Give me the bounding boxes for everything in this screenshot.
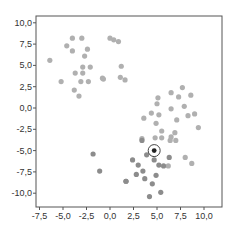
data-point [156,162,161,167]
x-tick-label: -5,0 [55,211,71,221]
data-point [88,65,93,70]
data-point [116,39,121,44]
data-point [188,93,193,98]
data-point [183,155,188,160]
y-tick-label: 7,5 [19,39,32,49]
data-point [79,36,84,41]
highlighted-point[interactable] [148,145,160,157]
x-tick-label: -2,5 [79,211,95,221]
data-point [142,176,147,181]
x-tick-label: 2,5 [127,211,140,221]
x-tick-label: 5,0 [151,211,164,221]
data-point [85,47,90,52]
data-point [196,125,201,130]
data-point [159,128,164,133]
data-point [150,181,155,186]
data-point [76,93,81,98]
x-tick-label: 0,0 [104,211,117,221]
data-point [136,162,141,167]
data-point [78,79,83,84]
data-point [72,88,77,93]
data-point [182,104,187,109]
data-point [152,157,157,162]
data-point [82,53,87,58]
data-point [149,111,154,116]
data-point [172,130,177,135]
x-tick-label: -7,5 [32,211,48,221]
data-point [140,168,145,173]
data-point [176,94,181,99]
data-point [70,48,75,53]
data-point [134,172,139,177]
data-point [180,85,185,90]
y-tick-label: 5,0 [19,60,32,70]
data-point [166,163,171,168]
y-tick-label: -10,0 [11,188,32,198]
x-tick-label: 10,0 [195,211,213,221]
y-tick-label: -5,0 [16,146,32,156]
data-point [189,161,194,166]
data-point [153,135,158,140]
scatter-chart: 10,07,55,02,50,0-2,5-5,0-7,5-10,0 -7,5-5… [0,0,235,232]
y-axis: 10,07,55,02,50,0-2,5-5,0-7,5-10,0 [11,18,36,198]
data-point [139,138,144,143]
data-point [141,116,146,121]
data-point [192,111,197,116]
data-point [173,138,178,143]
data-point [107,36,112,41]
y-tick-label: -2,5 [16,124,32,134]
data-point [97,168,102,173]
y-tick-label: -7,5 [16,167,32,177]
data-point [80,70,85,75]
data-point [86,79,91,84]
data-point [167,155,172,160]
data-point [154,101,159,106]
data-point [158,190,163,195]
data-point [73,70,78,75]
data-point [64,43,69,48]
x-axis: -7,5-5,0-2,50,02,55,07,510,0 [32,207,213,221]
data-point [119,64,124,69]
data-point [161,163,166,168]
data-point [59,79,64,84]
data-point [174,117,179,122]
x-tick-label: 7,5 [174,211,187,221]
data-point [155,95,160,100]
y-tick-label: 10,0 [14,18,32,28]
data-point [123,179,128,184]
data-point [130,157,135,162]
data-point [156,112,161,117]
data-point [100,76,105,81]
data-point [147,194,152,199]
data-point [153,121,158,126]
data-point [70,36,75,41]
data-point [122,77,127,82]
data-point [118,75,123,80]
selected-point[interactable] [152,148,157,153]
data-point [168,138,173,143]
y-tick-label: 2,5 [19,82,32,92]
data-point [185,113,190,118]
data-point [80,65,85,70]
data-point [153,173,158,178]
data-point [90,151,95,156]
data-point [169,90,174,95]
data-point [159,135,164,140]
y-tick-label: 0,0 [19,103,32,113]
data-point [169,106,174,111]
data-point [47,58,52,63]
